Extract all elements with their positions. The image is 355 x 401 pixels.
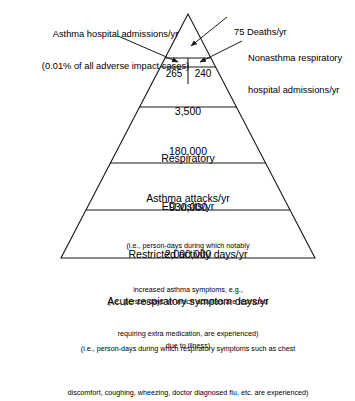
nonasthma-respiratory-callout: Nonasthma respiratory hospital admission… (248, 32, 342, 118)
band-acute-respiratory-symptom-days-label-1: Acute respiratory symptom days/yr (43, 296, 333, 308)
band-asthma-attacks-value: 180,000 (98, 146, 278, 158)
band-restricted-activity-days-value: 930,000 (78, 202, 298, 214)
band-acute-respiratory-symptom-days-note-1: (i.e., person-days during which respirat… (43, 345, 333, 353)
band-acute-respiratory-symptom-days-value: 2,000,000 (43, 249, 333, 261)
asthma-hospital-admissions-callout-line1: Asthma hospital admissions/yr (8, 29, 223, 40)
band-acute-respiratory-symptom-days: 2,000,000 Acute respiratory symptom days… (43, 213, 333, 401)
nonasthma-respiratory-callout-line1: Nonasthma respiratory (248, 53, 342, 64)
nonasthma-respiratory-callout-line2: hospital admissions/yr (248, 85, 342, 96)
band-acute-respiratory-symptom-days-note-2: discomfort, coughing, wheezing, doctor d… (43, 389, 333, 397)
